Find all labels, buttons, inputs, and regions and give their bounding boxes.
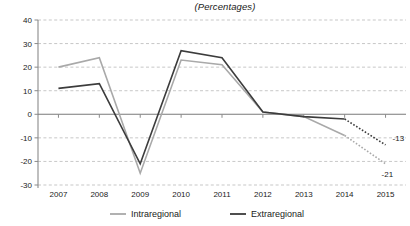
x-axis-tick-label: 2007: [50, 190, 68, 199]
data-series-group: [58, 51, 385, 174]
x-axis-tick-label: 2012: [254, 190, 272, 199]
x-axis-tick-label: 2014: [336, 190, 354, 199]
y-axis-tick-label: 40: [23, 16, 32, 25]
x-axis-tick-label: 2013: [295, 190, 313, 199]
y-axis-tick-labels: 403020100-10-20-30: [20, 16, 32, 190]
series-line-extraregional: [58, 51, 344, 164]
y-axis-tick-label: 20: [23, 63, 32, 72]
series-forecast-line-intraregional: [345, 136, 386, 164]
legend-label-intraregional: Intraregional: [131, 209, 181, 219]
x-axis-tick-label: 2011: [213, 190, 231, 199]
line-chart-plot: 403020100-10-20-30 200720082009201020112…: [0, 0, 410, 226]
y-axis: [35, 20, 39, 188]
gridlines: [38, 20, 406, 185]
legend-label-extraregional: Extraregional: [251, 209, 304, 219]
x-axis-tick-label: 2009: [131, 190, 149, 199]
y-axis-tick-label: -10: [20, 134, 32, 143]
x-axis-tick-label: 2015: [377, 190, 395, 199]
y-axis-tick-label: 0: [28, 110, 33, 119]
y-axis-tick-label: -30: [20, 181, 32, 190]
data-point-annotations: -13-21: [382, 134, 405, 179]
chart-legend: IntraregionalExtraregional: [110, 209, 304, 219]
series-forecast-line-extraregional: [345, 119, 386, 145]
x-axis-tick-labels: 200720082009201020112012201320142015: [50, 190, 395, 199]
series-line-intraregional: [58, 58, 344, 174]
y-axis-tick-label: 10: [23, 87, 32, 96]
data-label-extraregional: -13: [393, 134, 405, 143]
chart-container: (Percentages) 403020100-10-20-30 2007200…: [0, 0, 410, 226]
x-axis-tick-label: 2008: [90, 190, 108, 199]
data-label-intraregional: -21: [382, 170, 394, 179]
x-axis-tick-label: 2010: [172, 190, 190, 199]
y-axis-tick-label: -20: [20, 157, 32, 166]
y-axis-tick-label: 30: [23, 40, 32, 49]
